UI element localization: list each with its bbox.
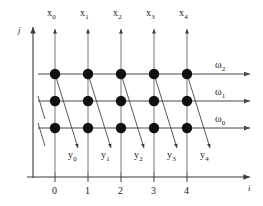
output-label-y2: y2 [134, 150, 143, 163]
diagonal-line-y3 [154, 74, 177, 148]
diagonal-line-partial-a [38, 96, 45, 119]
j-axis-label: j [18, 26, 21, 35]
diagonal-line-y4 [187, 74, 210, 148]
output-label-y4: y4 [200, 150, 209, 163]
output-label-y3: y3 [167, 150, 176, 163]
input-label-x0: x0 [47, 8, 56, 21]
x-tick-label-3: 3 [151, 186, 156, 196]
node-dot [83, 69, 93, 79]
weight-label-w2: ω2 [215, 60, 226, 73]
node-dot [149, 123, 159, 133]
diagonal-lines [38, 74, 210, 148]
node-dot [50, 69, 60, 79]
input-label-x2: x2 [113, 8, 122, 21]
figure-canvas: x0 x1 x2 x3 x4 ω2 ω1 ω0 y0 y1 y2 y3 y4 0… [0, 0, 263, 206]
weight-label-w1: ω1 [215, 87, 226, 100]
diagonal-line-y2 [121, 74, 144, 148]
node-dot [83, 123, 93, 133]
node-dot [116, 69, 126, 79]
node-dot [83, 96, 93, 106]
node-dot [182, 69, 192, 79]
input-label-x4: x4 [179, 8, 188, 21]
node-dot [182, 96, 192, 106]
node-dot [149, 96, 159, 106]
node-dot [182, 123, 192, 133]
x-tick-label-4: 4 [184, 186, 189, 196]
i-axis-label: i [248, 184, 251, 193]
node-dot [116, 96, 126, 106]
input-label-x1: x1 [80, 8, 89, 21]
output-label-y0: y0 [68, 150, 77, 163]
x-tick-label-2: 2 [118, 186, 123, 196]
node-dot [149, 69, 159, 79]
x-tick-label-0: 0 [52, 186, 57, 196]
weight-label-w0: ω0 [215, 114, 226, 127]
output-label-y1: y1 [101, 150, 110, 163]
input-label-x3: x3 [146, 8, 155, 21]
x-tick-label-1: 1 [85, 186, 90, 196]
node-dot [50, 123, 60, 133]
node-dot [50, 96, 60, 106]
diagonal-line-y1 [88, 74, 111, 148]
diagonal-line-partial-b [38, 123, 45, 146]
node-dot [116, 123, 126, 133]
diagonal-line-y0 [55, 74, 78, 148]
systolic-array-diagram [0, 0, 263, 206]
